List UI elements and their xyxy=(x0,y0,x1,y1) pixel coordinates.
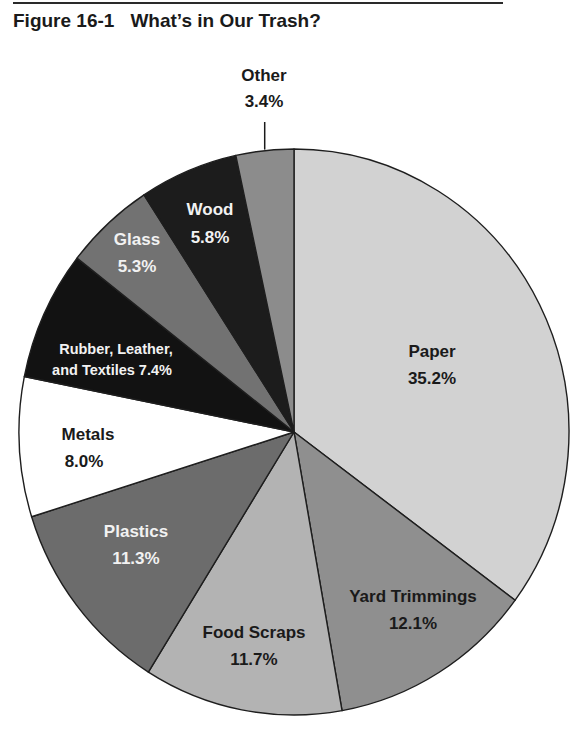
label-yard-name: Yard Trimmings xyxy=(349,587,477,606)
label-yard-value: 12.1% xyxy=(389,614,437,633)
label-food-value: 11.7% xyxy=(230,650,277,669)
label-rubber-line2: and Textiles 7.4% xyxy=(52,362,172,378)
label-paper-name: Paper xyxy=(408,342,456,361)
label-other-name: Other xyxy=(241,66,287,85)
label-plastics-value: 11.3% xyxy=(112,549,159,568)
label-glass-value: 5.3% xyxy=(118,257,157,276)
label-paper-value: 35.2% xyxy=(408,369,456,388)
label-metals-name: Metals xyxy=(62,425,115,444)
label-rubber-line1: Rubber, Leather, xyxy=(59,341,173,357)
label-other-value: 3.4% xyxy=(245,92,284,111)
label-wood-name: Wood xyxy=(187,200,234,219)
label-food-name: Food Scraps xyxy=(203,623,306,642)
label-glass-name: Glass xyxy=(114,230,160,249)
label-plastics-name: Plastics xyxy=(104,522,168,541)
label-wood-value: 5.8% xyxy=(191,228,230,247)
pie-chart: Paper 35.2% Yard Trimmings 12.1% Food Sc… xyxy=(0,0,578,738)
label-metals-value: 8.0% xyxy=(65,452,104,471)
